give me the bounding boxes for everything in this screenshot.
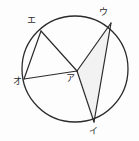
point-label-a: ア [66,74,75,83]
shaded-triangle-a-u-i [77,23,111,122]
point-label-e: エ [27,16,36,25]
geometry-canvas [0,0,139,141]
point-label-o: オ [13,77,22,86]
point-label-i: イ [89,127,98,136]
point-label-u: ウ [99,8,108,17]
segment-e-a [41,31,77,71]
geometry-figure: ア イ ウ エ オ [0,0,139,141]
